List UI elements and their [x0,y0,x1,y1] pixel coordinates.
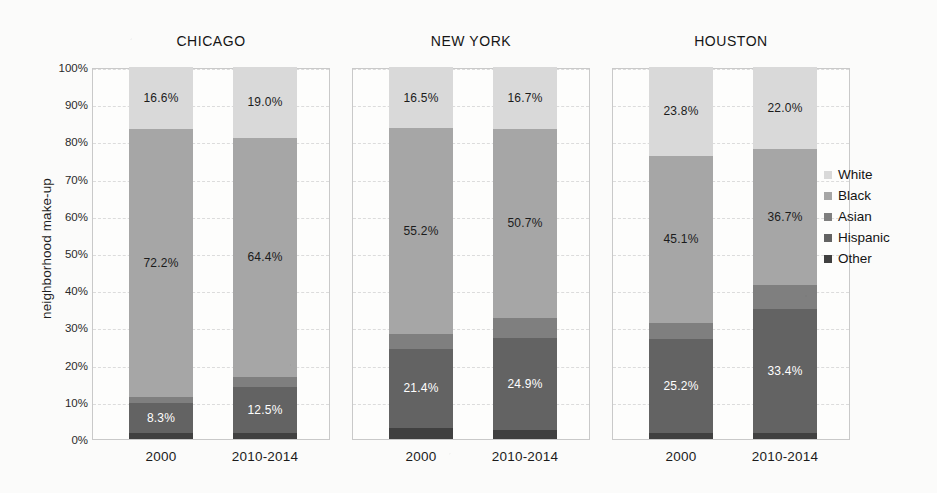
bar-segment-black[interactable]: 50.7% [493,129,557,318]
segment-value-label: 25.2% [649,379,713,393]
legend-label: Asian [838,210,872,224]
segment-value-label: 23.8% [649,104,713,118]
y-axis-tick-20: 20% [65,360,88,372]
bar-segment-asian[interactable] [493,318,557,338]
segment-value-label: 16.6% [129,91,193,105]
y-axis-tick-0: 0% [71,434,88,446]
bar-segment-white[interactable]: 16.6% [129,67,193,129]
bar-segment-asian[interactable] [233,377,297,387]
y-axis-tick-60: 60% [65,211,88,223]
y-axis-tick-labels: 0%10%20%30%40%50%60%70%80%90%100% [42,68,88,440]
panel-houston: HOUSTON20002010-201423.8%45.1%25.2%22.0%… [612,68,850,440]
segment-value-label: 55.2% [389,224,453,238]
bar-segment-asian[interactable] [753,285,817,308]
y-axis-tick-70: 70% [65,174,88,186]
segment-value-label: 45.1% [649,232,713,246]
bar-segment-asian[interactable] [389,334,453,349]
segment-value-label: 64.4% [233,250,297,264]
stacked-bar[interactable]: 16.6%72.2%8.3% [129,67,193,439]
panel-title: NEW YORK [353,33,589,49]
y-axis-tick-40: 40% [65,285,88,297]
x-axis-tick-label: 2010-2014 [200,449,330,464]
legend-item-hispanic[interactable]: Hispanic [824,227,932,248]
bar-segment-black[interactable]: 72.2% [129,129,193,398]
panel-title: HOUSTON [613,33,849,49]
bar-segment-other[interactable] [129,433,193,439]
x-axis-tick-label: 2010-2014 [720,449,850,464]
panel-title: CHICAGO [93,33,329,49]
bar-segment-hispanic[interactable]: 12.5% [233,387,297,434]
bar-segment-asian[interactable] [649,323,713,339]
legend-item-asian[interactable]: Asian [824,206,932,227]
segment-value-label: 33.4% [753,364,817,378]
bar-segment-white[interactable]: 16.5% [389,67,453,128]
stacked-bar-chart: neighborhood make-up 0%10%20%30%40%50%60… [0,0,937,493]
bar-segment-hispanic[interactable]: 33.4% [753,309,817,433]
legend-swatch-icon [824,171,832,179]
segment-value-label: 19.0% [233,95,297,109]
bar-segment-white[interactable]: 22.0% [753,67,817,149]
stacked-bar[interactable]: 16.5%55.2%21.4% [389,67,453,439]
legend-label: Other [838,252,872,266]
bar-segment-other[interactable] [649,433,713,439]
x-axis-tick-label: 2010-2014 [460,449,590,464]
stacked-bar[interactable]: 22.0%36.7%33.4% [753,67,817,439]
legend-swatch-icon [824,234,832,242]
segment-value-label: 8.3% [129,411,193,425]
legend-item-black[interactable]: Black [824,185,932,206]
segment-value-label: 36.7% [753,210,817,224]
y-axis-tick-100: 100% [59,62,88,74]
segment-value-label: 16.7% [493,91,557,105]
legend-item-other[interactable]: Other [824,248,932,269]
bar-segment-hispanic[interactable]: 25.2% [649,339,713,433]
y-axis-tick-50: 50% [65,248,88,260]
bar-segment-hispanic[interactable]: 21.4% [389,349,453,429]
bar-segment-other[interactable] [233,433,297,439]
legend-swatch-icon [824,255,832,263]
legend-swatch-icon [824,192,832,200]
bar-segment-white[interactable]: 23.8% [649,67,713,156]
y-axis-tick-10: 10% [65,397,88,409]
bar-segment-other[interactable] [389,428,453,439]
y-axis-tick-80: 80% [65,136,88,148]
segment-value-label: 72.2% [129,256,193,270]
plot-area: 23.8%45.1%25.2%22.0%36.7%33.4% [613,69,849,439]
y-axis-tick-30: 30% [65,322,88,334]
legend-label: Black [838,189,871,203]
bar-segment-other[interactable] [753,433,817,439]
legend-swatch-icon [824,213,832,221]
segment-value-label: 22.0% [753,101,817,115]
chart-legend: WhiteBlackAsianHispanicOther [824,164,932,269]
segment-value-label: 24.9% [493,377,557,391]
bar-segment-white[interactable]: 19.0% [233,67,297,138]
bar-segment-black[interactable]: 55.2% [389,128,453,333]
legend-item-white[interactable]: White [824,164,932,185]
segment-value-label: 12.5% [233,403,297,417]
bar-segment-hispanic[interactable]: 8.3% [129,403,193,434]
bar-segment-other[interactable] [493,430,557,439]
segment-value-label: 50.7% [493,216,557,230]
legend-label: White [838,168,873,182]
plot-area: 16.6%72.2%8.3%19.0%64.4%12.5% [93,69,329,439]
panel-new-york: NEW YORK20002010-201416.5%55.2%21.4%16.7… [352,68,590,440]
y-axis-tick-90: 90% [65,99,88,111]
bar-segment-white[interactable]: 16.7% [493,67,557,129]
bar-segment-hispanic[interactable]: 24.9% [493,338,557,431]
bar-segment-black[interactable]: 64.4% [233,138,297,378]
bar-segment-black[interactable]: 45.1% [649,156,713,324]
segment-value-label: 21.4% [389,381,453,395]
plot-area: 16.5%55.2%21.4%16.7%50.7%24.9% [353,69,589,439]
panel-chicago: CHICAGO20002010-201416.6%72.2%8.3%19.0%6… [92,68,330,440]
stacked-bar[interactable]: 16.7%50.7%24.9% [493,67,557,439]
bar-segment-black[interactable]: 36.7% [753,149,817,286]
segment-value-label: 16.5% [389,91,453,105]
stacked-bar[interactable]: 23.8%45.1%25.2% [649,67,713,439]
stacked-bar[interactable]: 19.0%64.4%12.5% [233,67,297,439]
legend-label: Hispanic [838,231,890,245]
